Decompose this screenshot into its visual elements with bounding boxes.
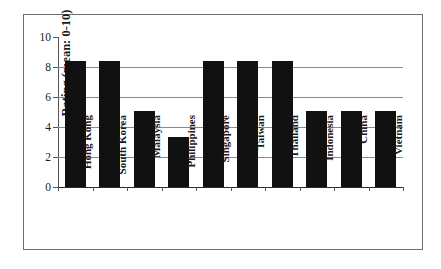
y-axis-tick xyxy=(53,97,58,98)
y-axis-tick-label: 2 xyxy=(45,151,51,163)
plot-area: 0246810 Hong KongSouth KoreaMalaysiaPhil… xyxy=(58,37,403,187)
chart-frame: Rating (mean: 0-10) 0246810 Hong KongSou… xyxy=(23,14,423,250)
x-axis-tick-label: Thailand xyxy=(288,115,301,195)
x-axis-tick-label: Singapore xyxy=(219,115,232,195)
x-axis-tick-label: Philippines xyxy=(185,115,198,195)
x-axis-tick-label: China xyxy=(357,115,370,195)
x-axis-tick-label: Hong Kong xyxy=(81,115,94,195)
y-axis-tick xyxy=(53,37,58,38)
y-axis-tick-label: 6 xyxy=(45,91,51,103)
y-axis-tick xyxy=(53,67,58,68)
x-axis-tick-label: Vietnam xyxy=(392,115,405,195)
x-axis-tick xyxy=(58,187,59,191)
chart-figure: Rating (mean: 0-10) 0246810 Hong KongSou… xyxy=(0,0,441,269)
x-axis-tick-label: Taiwan xyxy=(254,115,267,195)
y-axis-tick xyxy=(53,127,58,128)
y-axis-tick-label: 8 xyxy=(45,61,51,73)
y-axis-tick-label: 0 xyxy=(45,181,51,193)
x-axis-tick-label: Indonesia xyxy=(323,115,336,195)
x-axis-tick-label: South Korea xyxy=(116,115,129,195)
y-axis-tick-label: 4 xyxy=(45,121,51,133)
y-axis-tick-label: 10 xyxy=(40,31,52,43)
x-axis-tick-label: Malaysia xyxy=(150,115,163,195)
y-axis-line xyxy=(58,37,59,187)
y-axis-tick xyxy=(53,157,58,158)
